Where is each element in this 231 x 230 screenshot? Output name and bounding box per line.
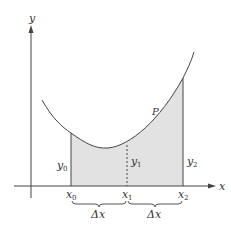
svg-text:1: 1: [137, 161, 141, 169]
curve-label: P: [151, 106, 159, 117]
label-x0: x 0: [66, 188, 76, 202]
label-y0: y 0: [56, 159, 67, 173]
brace-delta-x-2: [128, 201, 182, 207]
label-y2: y 2: [186, 155, 197, 169]
svg-text:2: 2: [193, 161, 197, 169]
simpson-rule-diagram: y x P y 0 y 1 y 2 x 0 x 1 x 2 Δx Δx: [0, 0, 231, 230]
brace-delta-x-1: [72, 201, 126, 207]
svg-text:2: 2: [184, 194, 188, 202]
delta-x-label-1: Δx: [90, 208, 106, 221]
y-axis-label: y: [28, 12, 36, 25]
svg-text:1: 1: [128, 194, 132, 202]
label-x2: x 2: [178, 188, 188, 202]
svg-text:0: 0: [72, 194, 76, 202]
x-axis-label: x: [219, 180, 226, 193]
delta-x-label-2: Δx: [146, 208, 162, 221]
x-axis-arrow-icon: [208, 184, 216, 189]
label-x1: x 1: [122, 188, 132, 202]
y-axis-arrow-icon: [29, 25, 34, 33]
svg-text:0: 0: [63, 165, 67, 173]
